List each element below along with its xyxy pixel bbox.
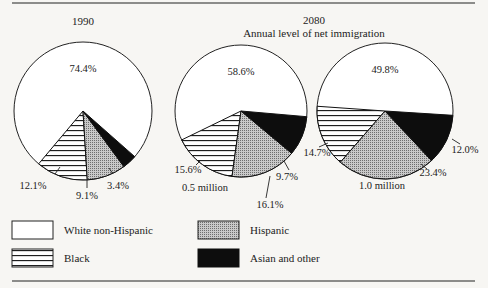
pie-title: 1990 [72, 15, 95, 27]
pie-subtitle: 1.0 million [359, 180, 406, 191]
group-title: 2080 [303, 14, 326, 26]
group-subtitle: Annual level of net immigration [243, 27, 385, 39]
pie-label-hispanic: 23.4% [419, 167, 446, 178]
pie-chart-figure: 2080 Annual level of net immigration 74.… [0, 0, 488, 288]
legend-item-hispanic: Hispanic [198, 221, 289, 239]
pie-label-white: 58.6% [227, 66, 254, 77]
pie-label-black: 12.1% [19, 180, 46, 191]
pie-label-black: 15.6% [174, 164, 201, 175]
leader-line-hispanic [266, 176, 270, 198]
legend-item-black: Black [12, 249, 90, 267]
pie-label-hispanic: 9.1% [76, 190, 98, 201]
pies-group: 74.4%12.1%9.1%3.4%199058.6%15.6%16.1%9.7… [14, 15, 479, 210]
legend-swatch-white [12, 221, 53, 239]
pie-label-asian: 3.4% [107, 180, 129, 191]
pie-label-white: 74.4% [69, 63, 96, 74]
legend-label-white: White non-Hispanic [64, 224, 153, 236]
pie-subtitle: 0.5 million [182, 182, 229, 193]
pie-label-asian: 9.7% [276, 171, 298, 182]
pie-label-black: 14.7% [303, 147, 330, 158]
legend-swatch-asian [198, 249, 239, 267]
pie-label-white: 49.8% [371, 64, 398, 75]
leader-line-asian [284, 161, 289, 170]
legend-label-hispanic: Hispanic [250, 224, 289, 236]
pie-3: 49.8%14.7%23.4%12.0%1.0 million [303, 43, 478, 191]
legend-swatch-hispanic [198, 221, 239, 239]
legend-item-white: White non-Hispanic [12, 221, 153, 239]
pie-label-hispanic: 16.1% [256, 199, 283, 210]
legend: White non-Hispanic Black Hispanic Asian … [12, 221, 320, 267]
legend-swatch-black [12, 249, 53, 267]
legend-item-asian: Asian and other [198, 249, 320, 267]
legend-label-asian: Asian and other [250, 252, 320, 264]
legend-label-black: Black [64, 252, 90, 264]
pie-label-asian: 12.0% [451, 144, 478, 155]
pie-1: 74.4%12.1%9.1%3.4%1990 [14, 15, 152, 201]
pie-2: 58.6%15.6%16.1%9.7%0.5 million [174, 45, 307, 210]
